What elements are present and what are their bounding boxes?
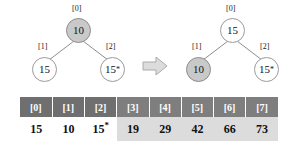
- tree-before-node-right[interactable]: 15*: [100, 57, 125, 82]
- tree-after-node-root[interactable]: 15: [220, 18, 245, 43]
- array-header-cell: [5]: [181, 97, 213, 117]
- array-value-cell: 10: [52, 117, 84, 141]
- array-value: 15: [92, 122, 104, 136]
- tree-after: [0] 15 [1] 10 [2] 15*: [170, 0, 295, 92]
- tree-after-index-root: [0]: [226, 5, 235, 13]
- array-value: 73: [256, 122, 268, 136]
- array-value: 42: [191, 122, 203, 136]
- array-value: 10: [62, 122, 74, 136]
- tree-after-node-left[interactable]: 10: [186, 57, 211, 82]
- node-value: 15: [105, 64, 116, 75]
- array-header-cell: [2]: [85, 97, 117, 117]
- node-value: 10: [193, 64, 204, 75]
- array-value-cell: 19: [117, 117, 149, 141]
- array-header-cell: [1]: [52, 97, 84, 117]
- tree-before-index-right: [2]: [106, 43, 115, 51]
- array-value-cell: 42: [181, 117, 213, 141]
- node-value: 15: [39, 64, 50, 75]
- array-value: 19: [127, 122, 139, 136]
- tree-before-node-left[interactable]: 15: [32, 57, 57, 82]
- node-value: 15: [259, 64, 270, 75]
- array-header-cell: [6]: [214, 97, 246, 117]
- array-header-cell: [4]: [149, 97, 181, 117]
- array-value-cell: 73: [246, 117, 278, 141]
- transform-arrow-icon: [142, 56, 168, 76]
- tree-diagram-area: [0] 10 [1] 15 [2] 15* [0] 15 [1] 10 [2] …: [0, 0, 297, 92]
- array-value: 15: [30, 122, 42, 136]
- tree-before: [0] 10 [1] 15 [2] 15*: [16, 0, 141, 92]
- tree-after-node-right[interactable]: 15*: [254, 57, 279, 82]
- node-value: 15: [227, 25, 238, 36]
- array-value-cell: 15*: [85, 117, 117, 141]
- array-table-header-row: [0][1][2][3][4][5][6][7]: [20, 97, 278, 117]
- array-table-value-row: 151015*1929426673: [20, 117, 278, 141]
- array-value-cell: 29: [149, 117, 181, 141]
- tree-before-index-root: [0]: [72, 5, 81, 13]
- tree-after-index-left: [1]: [192, 43, 201, 51]
- node-value: 10: [73, 25, 84, 36]
- array-header-cell: [7]: [246, 97, 278, 117]
- tree-after-index-right: [2]: [260, 43, 269, 51]
- array-value-cell: 66: [214, 117, 246, 141]
- tree-before-node-root[interactable]: 10: [66, 18, 91, 43]
- array-table: [0][1][2][3][4][5][6][7] 151015*19294266…: [20, 97, 278, 141]
- array-value-cell: 15: [20, 117, 52, 141]
- array-header-cell: [3]: [117, 97, 149, 117]
- array-header-cell: [0]: [20, 97, 52, 117]
- tree-before-index-left: [1]: [38, 43, 47, 51]
- array-value-star: *: [104, 120, 109, 130]
- array-value: 66: [224, 122, 236, 136]
- array-value: 29: [159, 122, 171, 136]
